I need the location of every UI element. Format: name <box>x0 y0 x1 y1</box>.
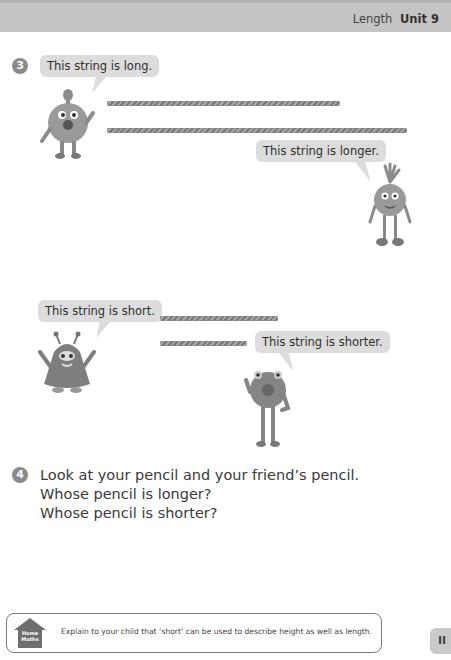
header-title: Length Unit 9 <box>353 12 439 26</box>
question-line-2: Whose pencil is longer? <box>40 485 359 504</box>
header-bar: Length Unit 9 <box>0 0 451 32</box>
bubble-long-text: This string is long. <box>47 59 152 73</box>
section-name: Length <box>353 12 393 26</box>
page-number-tab: II <box>430 628 451 654</box>
question-line-1: Look at your pencil and your friend’s pe… <box>40 466 359 485</box>
speech-bubble-long: This string is long. <box>40 55 159 77</box>
speech-bubble-shorter: This string is shorter. <box>255 331 390 353</box>
monster-short-icon <box>36 330 98 396</box>
home-maths-house-icon: Home Maths <box>13 617 47 649</box>
home-maths-note: Home Maths Explain to your child that ‘s… <box>6 613 382 653</box>
bubble-longer-text: This string is longer. <box>263 144 379 158</box>
string-shorter <box>160 341 247 346</box>
bubble-short-text: This string is short. <box>45 304 155 318</box>
bubble-shorter-text: This string is shorter. <box>262 335 383 349</box>
home-maths-text: Explain to your child that ‘short’ can b… <box>61 627 372 636</box>
page-number: II <box>438 634 446 647</box>
monster-shorter-icon <box>240 360 292 452</box>
speech-bubble-longer: This string is longer. <box>256 140 386 162</box>
monster-long-icon <box>38 85 100 160</box>
string-long <box>107 101 340 106</box>
string-longer <box>107 128 407 133</box>
unit-label: Unit 9 <box>400 12 439 26</box>
question-line-3: Whose pencil is shorter? <box>40 504 359 523</box>
exercise-3-number: 3 <box>12 58 28 74</box>
exercise-4-number: 4 <box>12 467 28 483</box>
exercise-4-question: Look at your pencil and your friend’s pe… <box>40 466 359 523</box>
monster-longer-icon <box>365 162 415 250</box>
speech-bubble-short: This string is short. <box>38 300 162 322</box>
string-short <box>160 316 278 321</box>
maths-label: Maths <box>13 636 47 642</box>
